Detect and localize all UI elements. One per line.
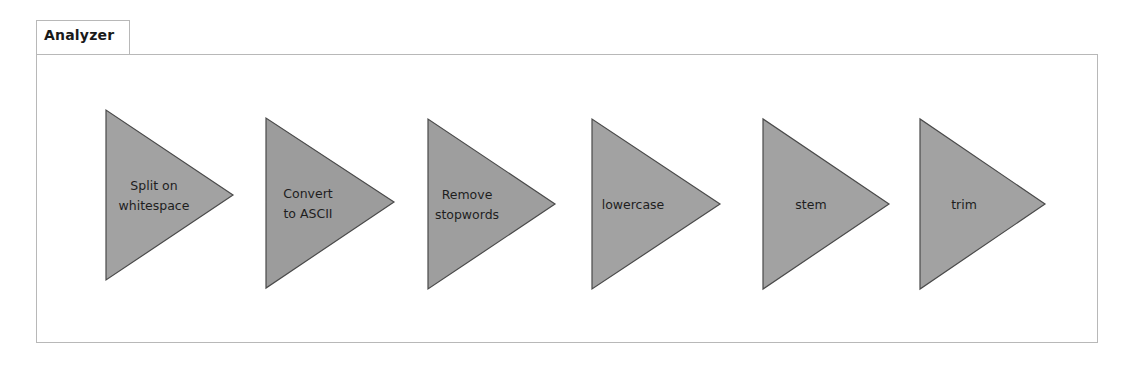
analyzer-title: Analyzer [44,27,114,43]
stage-label: stem [795,197,826,212]
stage-label: to ASCII [283,206,332,221]
stage-convert-to-ascii: Convert to ASCII [266,118,394,288]
stage-label: Convert [283,186,333,201]
analyzer-tab: Analyzer [36,20,130,54]
stage-trim: trim [920,119,1045,289]
stage-split-on-whitespace: Split on whitespace [106,110,233,280]
stage-remove-stopwords: Remove stopwords [428,119,555,289]
stage-label: Split on [130,178,177,193]
stage-label: Remove [442,187,493,202]
stage-label: trim [951,197,977,212]
stage-lowercase: lowercase [592,119,720,289]
stage-label: lowercase [602,197,665,212]
stage-label: stopwords [435,207,499,222]
stage-stem: stem [763,119,889,289]
analyzer-pipeline: Split on whitespace Convert to ASCII Rem… [0,0,1131,365]
stage-label: whitespace [119,198,190,213]
